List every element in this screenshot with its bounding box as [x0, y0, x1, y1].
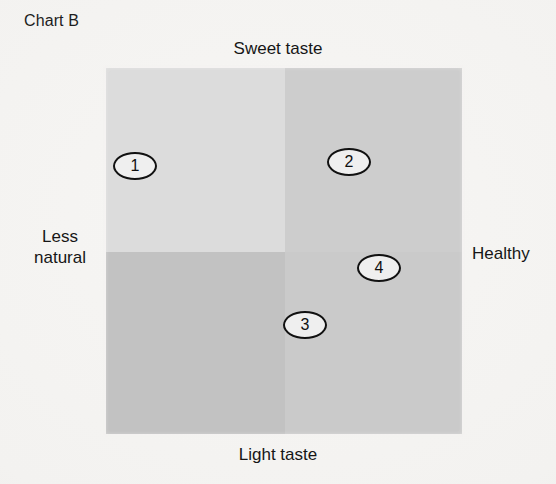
- data-point-marker[interactable]: 1: [113, 152, 157, 180]
- data-point-label: 4: [375, 259, 384, 277]
- data-point-label: 1: [131, 157, 140, 175]
- data-point-marker[interactable]: 3: [283, 311, 327, 339]
- quadrant-top-right: [285, 68, 462, 252]
- axis-label-top: Sweet taste: [0, 38, 556, 59]
- data-point-marker[interactable]: 4: [357, 254, 401, 282]
- axis-label-bottom: Light taste: [0, 444, 556, 465]
- chart-title: Chart B: [24, 12, 79, 30]
- data-point-marker[interactable]: 2: [327, 148, 371, 176]
- perceptual-map-plot: 1234: [106, 68, 462, 434]
- data-point-label: 2: [345, 153, 354, 171]
- data-point-label: 3: [301, 316, 310, 334]
- quadrant-bottom-left: [106, 252, 285, 434]
- axis-label-left: Lessnatural: [18, 226, 102, 269]
- axis-label-right: Healthy: [472, 243, 530, 264]
